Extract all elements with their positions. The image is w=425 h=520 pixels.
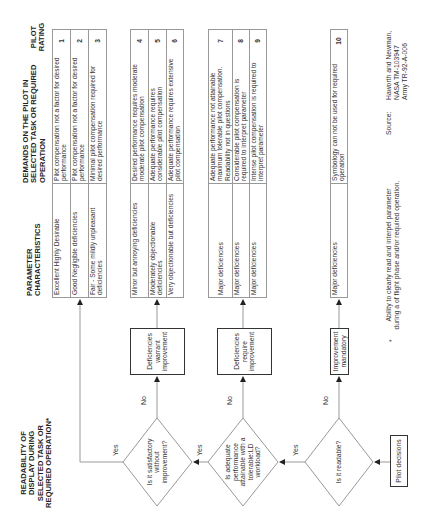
rating-cell: 2 <box>71 30 89 53</box>
table-row: Moderately objectionable deficiencies Ad… <box>149 30 167 298</box>
rating-cell: 7 <box>209 30 233 53</box>
rating-scale-flowchart: READABILITY OF DISPLAY DURING SELECTED T… <box>0 0 425 520</box>
decision-readable: Is it readable? <box>325 430 353 494</box>
parameter-cell: Excellent Highly Desirable <box>53 184 71 298</box>
source-line: Army TR-92-A-006 <box>401 31 409 100</box>
header-parameter: PARAMETER CHARACTERISTICS <box>26 196 43 296</box>
deficiencies-warrant-box: Deficiencies warrant improvement <box>130 328 185 375</box>
demands-cell: Adequate performance not attainable maxi… <box>209 52 233 184</box>
parameter-cell: Major deficiencies <box>233 184 250 298</box>
yes-label-q1: Yes <box>292 445 299 456</box>
no-label-q1: No <box>322 396 329 405</box>
parameter-cell: Good Negligible deficiencies <box>71 184 89 298</box>
chart-title: READABILITY OF DISPLAY DURING SELECTED T… <box>20 418 54 508</box>
footnote-text: Ability to clearly read and interpel par… <box>385 180 401 330</box>
parameter-cell: Major deficiencies <box>250 184 267 298</box>
table-row: Major deficiencies Adequate performance … <box>209 30 233 298</box>
demands-cell: Intense pilot compensation is required t… <box>250 52 267 184</box>
table-row: Very objectionable but deficiencies Adeq… <box>167 30 184 298</box>
parameter-cell: Moderately objectionable deficiencies <box>149 184 167 298</box>
demands-cell: Desired performance requires moderate mo… <box>131 52 149 184</box>
rating-table-3: Major deficiencies Adequate performance … <box>208 29 267 298</box>
demands-cell: Pilot compensation not a factor for desi… <box>71 52 89 184</box>
footnote-marker: * <box>388 339 396 342</box>
rating-table-4: Major deficiencies Symbology can not be … <box>330 29 348 298</box>
rating-cell: 3 <box>89 30 107 53</box>
header-demands: DEMANDS ON THE PILOT IN SELECTED TASK OR… <box>22 53 47 183</box>
source-line: NASA TM-103947 <box>393 31 401 100</box>
demands-cell: Minimal pilot compensation required for … <box>89 52 107 184</box>
table-row: Major deficiencies Symbology can not be … <box>331 30 348 298</box>
table-row: Minor but annoying deficiencies Desired … <box>131 30 149 298</box>
yes-label-q3: Yes <box>112 445 119 456</box>
rating-cell: 6 <box>167 30 184 53</box>
parameter-cell: Very objectionable but deficiencies <box>167 184 184 298</box>
parameter-cell: Fair - Some mildly unpleasant deficienci… <box>89 184 107 298</box>
demands-cell: Pilot compensation not a factor for desi… <box>53 52 71 184</box>
table-row: Major deficiencies Intense pilot compens… <box>250 30 267 298</box>
no-label-q3: No <box>140 396 147 405</box>
pilot-decisions-box: Pilot decisions <box>390 435 408 487</box>
rating-table-2: Minor but annoying deficiencies Desired … <box>130 29 184 298</box>
rating-table-1: Excellent Highly Desirable Pilot compens… <box>52 29 107 298</box>
source-label: Source: <box>385 112 393 135</box>
source-citation: Haworth and Newman, NASA TM-103947 Army … <box>385 31 408 100</box>
demands-cell: Considerable pilot compensation is requi… <box>233 52 250 184</box>
table-row: Excellent Highly Desirable Pilot compens… <box>53 30 71 298</box>
no-label-q2: No <box>226 396 233 405</box>
rating-cell: 1 <box>53 30 71 53</box>
rating-cell: 8 <box>233 30 250 53</box>
parameter-cell: Major deficiencies <box>209 184 233 298</box>
deficiencies-require-box: Deficiencies require improvement <box>217 328 272 375</box>
decision-adequate-performance: Is adequate performance attainable with … <box>222 430 264 494</box>
rating-cell: 9 <box>250 30 267 53</box>
rating-cell: 5 <box>149 30 167 53</box>
demands-cell: Adequate performance requires extensive … <box>167 52 184 184</box>
table-row: Fair - Some mildly unpleasant deficienci… <box>89 30 107 298</box>
demands-cell: Symbology can not be used for required o… <box>331 52 348 184</box>
header-rating: PILOT RATING <box>30 20 47 54</box>
decision-satisfactory: Is it satisfactory without improvement? <box>140 432 174 492</box>
parameter-cell: Major deficiencies <box>331 184 348 298</box>
yes-label-q2: Yes <box>196 445 203 456</box>
demands-cell: Adequate performance requires considerab… <box>149 52 167 184</box>
table-row: Major deficiencies Considerable pilot co… <box>233 30 250 298</box>
improvement-mandatory-box: Improvement mandatory <box>330 328 349 375</box>
parameter-cell: Minor but annoying deficiencies <box>131 184 149 298</box>
source-line: Haworth and Newman, <box>385 31 393 100</box>
rating-cell: 10 <box>331 30 348 53</box>
table-row: Good Negligible deficiencies Pilot compe… <box>71 30 89 298</box>
rating-cell: 4 <box>131 30 149 53</box>
